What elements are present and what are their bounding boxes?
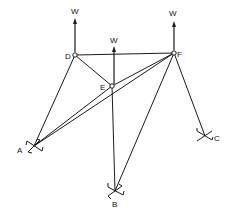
arrowhead-icon: [112, 46, 116, 52]
member-d-e: [75, 55, 112, 86]
load-arrow-f: W: [169, 9, 177, 50]
load-arrow-e: W: [110, 36, 118, 84]
member-e-b: [112, 86, 115, 191]
arrowhead-icon: [73, 18, 77, 24]
label-b: B: [112, 200, 117, 209]
member-f-c: [174, 53, 205, 136]
member-d-f: [75, 53, 174, 55]
label-f: F: [177, 50, 182, 59]
joints: [73, 51, 176, 88]
load-label-e: W: [110, 36, 118, 45]
label-c: C: [214, 134, 220, 143]
joint-e: [110, 84, 114, 88]
supports: [26, 128, 213, 199]
label-a: A: [17, 146, 23, 155]
load-label-d: W: [71, 7, 79, 16]
members: [34, 53, 205, 191]
loads: W W W: [71, 7, 177, 84]
member-f-b: [115, 53, 174, 191]
joint-f: [172, 51, 176, 55]
arrowhead-icon: [172, 21, 176, 27]
joint-d: [73, 53, 77, 57]
member-e-f: [112, 53, 174, 86]
load-arrow-d: W: [71, 7, 79, 52]
support-c: [197, 128, 213, 141]
support-b: [108, 183, 124, 199]
member-e-a: [34, 86, 112, 146]
label-e: E: [100, 83, 105, 92]
load-label-f: W: [169, 9, 177, 18]
label-d: D: [65, 52, 71, 61]
truss-diagram: W W W: [0, 0, 232, 215]
node-labels: D E F A B C: [17, 50, 220, 209]
